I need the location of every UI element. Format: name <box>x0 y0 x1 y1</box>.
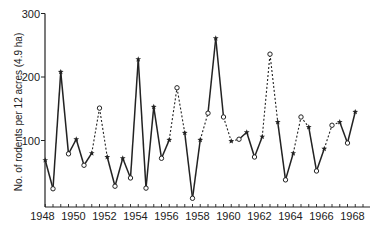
open-circle-marker <box>97 106 101 110</box>
open-circle-marker <box>175 86 179 90</box>
rodent-density-chart: 100200300 194819501952195419561958196019… <box>0 0 380 225</box>
solid-segment <box>185 133 193 198</box>
y-tick-label: 100 <box>22 135 40 147</box>
dashed-segment <box>262 54 270 137</box>
dashed-segment <box>293 117 301 153</box>
x-tick-label: 1954 <box>123 210 147 222</box>
solid-segment <box>53 72 61 189</box>
open-circle-marker <box>206 111 210 115</box>
open-circle-marker <box>144 186 148 190</box>
star-marker <box>89 150 95 155</box>
open-circle-marker <box>283 178 287 182</box>
y-axis-title: No. of rodents per 12 acres (4.9 ha) <box>13 33 24 191</box>
open-circle-marker <box>221 115 225 119</box>
solid-segment <box>45 160 53 189</box>
open-circle-marker <box>252 155 256 159</box>
dashed-segment <box>100 108 108 157</box>
x-tick-label: 1960 <box>216 210 240 222</box>
open-circle-marker <box>330 123 334 127</box>
solid-segment <box>193 140 201 198</box>
dashed-segment <box>224 117 232 141</box>
dashed-segment <box>270 54 278 122</box>
open-circle-marker <box>82 163 86 167</box>
solid-segment <box>123 158 131 178</box>
dashed-segment <box>92 108 100 153</box>
open-circle-marker <box>268 52 272 56</box>
solid-segment <box>317 149 325 171</box>
open-circle-marker <box>128 176 132 180</box>
solid-segment <box>208 38 216 113</box>
x-tick-label: 1956 <box>154 210 178 222</box>
solid-segment <box>146 107 154 188</box>
dashed-segment <box>200 113 208 140</box>
open-circle-marker <box>66 152 70 156</box>
solid-segment <box>138 59 146 188</box>
data-line-segments <box>45 38 355 198</box>
x-tick-label: 1966 <box>309 210 333 222</box>
solid-segment <box>255 137 263 157</box>
x-tick-label: 1968 <box>340 210 364 222</box>
open-circle-marker <box>51 187 55 191</box>
solid-segment <box>162 140 170 158</box>
solid-segment <box>131 59 139 178</box>
solid-segment <box>247 132 255 157</box>
solid-segment <box>278 122 286 180</box>
open-circle-marker <box>314 169 318 173</box>
y-axis: 100200300 <box>22 8 45 208</box>
open-circle-marker <box>113 184 117 188</box>
solid-segment <box>115 158 123 186</box>
x-tick-label: 1948 <box>30 210 54 222</box>
x-tick-label: 1958 <box>185 210 209 222</box>
x-axis: 1948195019521954195619581960196219641966… <box>30 204 370 222</box>
solid-segment <box>107 157 115 186</box>
open-circle-marker <box>159 156 163 160</box>
open-circle-marker <box>190 196 194 200</box>
x-tick-label: 1952 <box>92 210 116 222</box>
x-tick-label: 1962 <box>247 210 271 222</box>
open-circle-marker <box>299 115 303 119</box>
dashed-segment <box>169 88 177 140</box>
dashed-segment <box>324 125 332 148</box>
x-tick-label: 1964 <box>278 210 302 222</box>
solid-segment <box>154 107 162 158</box>
solid-segment <box>340 122 348 143</box>
solid-segment <box>76 139 84 165</box>
solid-segment <box>286 153 294 180</box>
data-point-markers <box>42 35 358 200</box>
y-tick-label: 300 <box>22 8 40 20</box>
solid-segment <box>216 38 224 117</box>
solid-segment <box>348 112 356 143</box>
dashed-segment <box>177 88 185 133</box>
open-circle-marker <box>345 141 349 145</box>
y-tick-label: 200 <box>22 71 40 83</box>
open-circle-marker <box>237 137 241 141</box>
solid-segment <box>309 127 317 171</box>
solid-segment <box>61 72 69 154</box>
x-tick-label: 1950 <box>61 210 85 222</box>
star-marker <box>228 138 234 143</box>
